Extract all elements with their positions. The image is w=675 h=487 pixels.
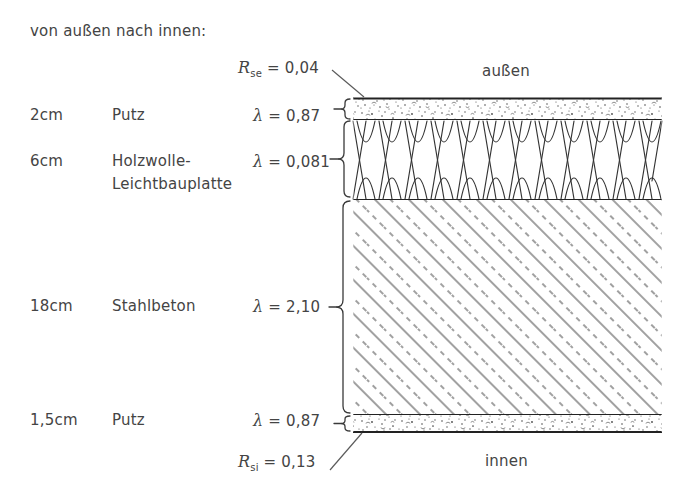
layer-2-lambda-symbol: λ [253,152,263,171]
layer-4-thickness: 1,5cm [30,411,78,429]
inside-label: innen [485,452,528,470]
layer-3-lambda: λ = 2,10 [253,297,320,316]
layer-2-material-line1: Holzwolle- [112,152,191,170]
layer-3-lambda-value: 2,10 [286,298,320,316]
layer-woodwool-board [353,120,662,200]
rse-symbol: R [238,58,250,77]
layer-3-material: Stahlbeton [112,297,196,315]
rsi-label: Rsi = 0,13 [238,452,316,473]
layer-2-material-line2: Leichtbauplatte [112,175,232,193]
rse-label: Rse = 0,04 [238,58,319,79]
rse-subscript: se [250,68,262,79]
layer-4-lambda-symbol: λ [253,411,263,430]
layer-3-thickness: 18cm [30,297,73,315]
layer-braces [329,99,350,431]
rsi-symbol: R [238,452,250,471]
layer-1-lambda: λ = 0,87 [253,106,320,125]
leader-line-rsi [330,433,362,470]
brace-layer-2 [338,121,350,197]
rsi-subscript: si [250,462,258,473]
brace-layer-4 [341,416,350,431]
layer-1-material: Putz [112,106,145,124]
layer-1-lambda-equals: = [268,107,281,125]
layer-4-lambda-equals: = [268,412,281,430]
rse-equals: = [267,59,280,77]
rsi-value: 0,13 [281,453,315,471]
outside-label: außen [482,62,530,80]
brace-layer-1 [341,99,350,119]
layer-1-lambda-value: 0,87 [286,107,320,125]
rsi-equals: = [264,453,277,471]
layer-inner-plaster [353,415,662,432]
layer-3-lambda-symbol: λ [253,297,263,316]
layer-3-lambda-equals: = [268,298,281,316]
layer-4-lambda-value: 0,87 [286,412,320,430]
brace-layer-3 [336,201,350,413]
page-note: von außen nach innen: [30,22,206,40]
layer-outer-plaster [353,98,662,120]
layer-2-thickness: 6cm [30,152,63,170]
rse-value: 0,04 [285,59,319,77]
layer-2-lambda-value: 0,081 [286,153,330,171]
layer-2-lambda: λ = 0,081 [253,152,330,171]
wall-cross-section-diagram [0,0,675,487]
layer-1-lambda-symbol: λ [253,106,263,125]
leader-line-rse [332,70,364,97]
layer-reinforced-concrete [353,200,662,415]
wall-assembly [353,98,662,432]
layer-2-lambda-equals: = [268,153,281,171]
layer-1-thickness: 2cm [30,106,63,124]
layer-4-material: Putz [112,411,145,429]
layer-4-lambda: λ = 0,87 [253,411,320,430]
